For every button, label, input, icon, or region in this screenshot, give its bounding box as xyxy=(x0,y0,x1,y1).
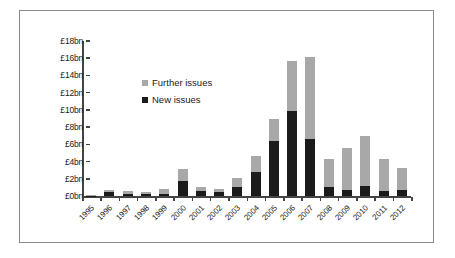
y-axis-tick: £6bn xyxy=(20,138,90,150)
x-axis-tick-mark xyxy=(228,197,230,201)
bar-stack xyxy=(86,195,96,196)
bar-stack xyxy=(324,159,334,196)
bar-segment-further-issues xyxy=(397,168,407,189)
bar-segment-new-issues xyxy=(141,194,151,196)
x-axis-tick-mark xyxy=(100,197,102,201)
x-axis-tick-mark xyxy=(137,197,139,201)
bar-stack xyxy=(104,190,114,196)
x-axis-tick-mark xyxy=(247,197,249,201)
bar-stack xyxy=(232,178,242,196)
bar-segment-new-issues xyxy=(305,139,315,196)
bar-segment-new-issues xyxy=(342,190,352,196)
y-axis-tick-mark xyxy=(86,144,90,146)
y-axis-tick: £16bn xyxy=(20,52,90,64)
x-axis-tick-mark xyxy=(192,197,194,201)
bar-segment-further-issues xyxy=(324,159,334,186)
bar-segment-new-issues xyxy=(287,111,297,196)
bar-segment-new-issues xyxy=(397,190,407,196)
bar-stack xyxy=(178,169,188,196)
x-axis-tick-mark xyxy=(119,197,121,201)
bar-segment-new-issues xyxy=(123,194,133,196)
x-axis-tick-mark xyxy=(393,197,395,201)
bar-segment-further-issues xyxy=(379,159,389,191)
bar-segment-further-issues xyxy=(269,119,279,141)
y-axis-tick: £0bn xyxy=(20,190,90,202)
y-axis-tick: £12bn xyxy=(20,87,90,99)
x-axis-tick-mark xyxy=(210,197,212,201)
bar-stack xyxy=(342,148,352,196)
chart-legend: Further issuesNew issues xyxy=(142,77,212,111)
bar-segment-further-issues xyxy=(287,61,297,111)
bar-segment-further-issues xyxy=(360,136,370,186)
y-axis-tick-mark xyxy=(86,178,90,180)
x-axis-tick-mark xyxy=(283,197,285,201)
y-axis-tick-mark xyxy=(86,126,90,128)
bar-stack xyxy=(196,187,206,196)
y-axis-tick-label: £4bn xyxy=(65,157,86,167)
legend-item-label: Further issues xyxy=(152,77,212,88)
bar-segment-further-issues xyxy=(342,148,352,191)
bar-stack xyxy=(251,156,261,196)
bar-segment-new-issues xyxy=(214,192,224,196)
y-axis-tick: £14bn xyxy=(20,69,90,81)
bar-segment-further-issues xyxy=(251,156,261,172)
y-axis-tick: £4bn xyxy=(20,156,90,168)
bar-stack xyxy=(397,168,407,196)
bar-stack xyxy=(287,61,297,196)
x-axis-tick-mark xyxy=(356,197,358,201)
y-axis-tick: £2bn xyxy=(20,173,90,185)
chart-figure: £18bn£16bn£14bn£12bn£10bn£8bn£6bn£4bn£2b… xyxy=(19,10,434,243)
bar-segment-new-issues xyxy=(196,191,206,196)
bar-stack xyxy=(269,119,279,196)
bar-stack xyxy=(305,57,315,196)
y-axis-tick-mark xyxy=(86,109,90,111)
y-axis-tick-label: £14bn xyxy=(60,70,86,80)
y-axis-tick-label: £10bn xyxy=(60,105,86,115)
plot-area: £18bn£16bn£14bn£12bn£10bn£8bn£6bn£4bn£2b… xyxy=(20,11,433,242)
x-axis-tick-mark xyxy=(173,197,175,201)
bar-segment-new-issues xyxy=(178,181,188,196)
y-axis-tick-label: £6bn xyxy=(65,139,86,149)
bar-segment-new-issues xyxy=(324,187,334,196)
bar-stack xyxy=(214,189,224,196)
y-axis-tick-label: £8bn xyxy=(65,122,86,132)
y-axis-tick-mark xyxy=(86,40,90,42)
x-axis-tick-mark xyxy=(265,197,267,201)
x-axis-tick-mark xyxy=(411,197,413,201)
legend-item-label: New issues xyxy=(152,94,201,105)
y-axis-tick-label: £12bn xyxy=(60,88,86,98)
bar-segment-further-issues xyxy=(305,57,315,139)
y-axis-tick: £18bn xyxy=(20,35,90,47)
bar-stack xyxy=(123,191,133,196)
y-axis-tick-label: £2bn xyxy=(65,174,86,184)
legend-item: New issues xyxy=(142,94,212,105)
y-axis-tick: £10bn xyxy=(20,104,90,116)
bar-stack xyxy=(360,136,370,196)
y-axis-tick-mark xyxy=(86,57,90,59)
y-axis-tick-label: £16bn xyxy=(60,53,86,63)
bar-segment-new-issues xyxy=(360,186,370,196)
y-axis-tick-label: £18bn xyxy=(60,36,86,46)
bar-segment-new-issues xyxy=(232,187,242,196)
legend-swatch-icon xyxy=(142,80,148,86)
bar-segment-new-issues xyxy=(379,191,389,196)
x-axis-tick-mark xyxy=(301,197,303,201)
x-axis-tick-mark xyxy=(374,197,376,201)
x-axis-tick-mark xyxy=(155,197,157,201)
bar-segment-new-issues xyxy=(251,172,261,196)
bar-stack xyxy=(379,159,389,196)
legend-item: Further issues xyxy=(142,77,212,88)
bar-segment-further-issues xyxy=(178,169,188,181)
bar-segment-new-issues xyxy=(159,194,169,196)
y-axis-tick-mark xyxy=(86,161,90,163)
bar-segment-further-issues xyxy=(232,178,242,187)
bar-segment-new-issues xyxy=(104,192,114,196)
x-axis-tick-mark xyxy=(320,197,322,201)
y-axis-tick-mark xyxy=(86,75,90,77)
y-axis-tick-mark xyxy=(86,92,90,94)
x-axis-tick-mark xyxy=(82,197,84,201)
y-axis-tick: £8bn xyxy=(20,121,90,133)
bar-stack xyxy=(159,189,169,196)
legend-swatch-icon xyxy=(142,97,148,103)
x-axis-tick-mark xyxy=(338,197,340,201)
